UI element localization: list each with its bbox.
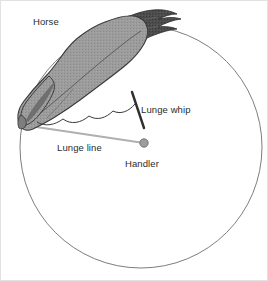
lunge-whip-label: Lunge whip <box>141 104 191 115</box>
horse-label: Horse <box>33 16 59 27</box>
lunging-diagram: Horse Lunge whip Lunge line Handler <box>0 0 268 281</box>
handler-label: Handler <box>125 158 159 169</box>
lunge-line-rope <box>23 125 144 143</box>
handler-dot <box>140 139 148 147</box>
lunge-line-label: Lunge line <box>57 142 102 153</box>
diagram-canvas: Horse Lunge whip Lunge line Handler <box>1 1 268 281</box>
